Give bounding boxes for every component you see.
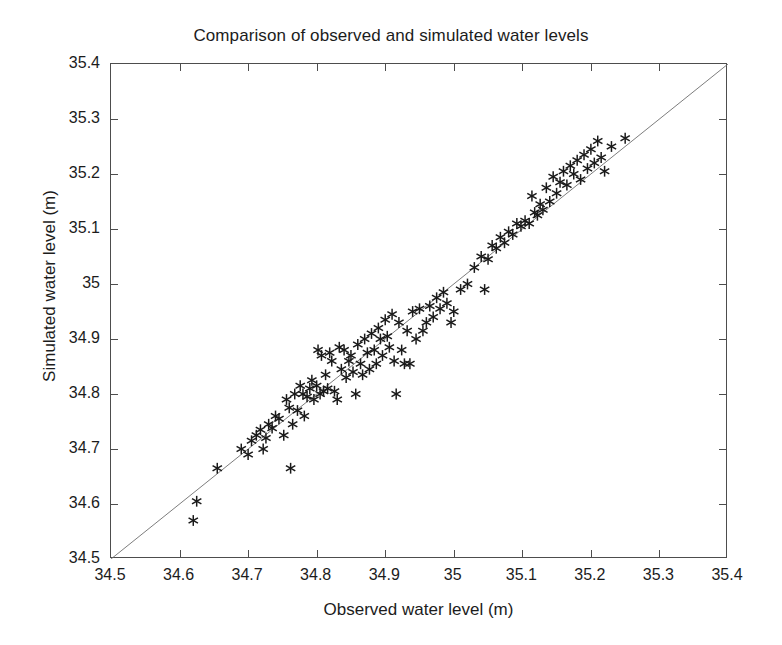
data-point [389,356,398,367]
x-tick-mark [591,550,592,557]
data-point [351,389,360,400]
data-point [261,433,270,444]
y-tick-label: 35.4 [0,54,100,72]
data-point [192,496,201,507]
data-point [545,196,554,207]
x-tick-label: 34.8 [300,566,331,584]
x-tick-label: 35.3 [643,566,674,584]
y-tick-mark-right [719,229,726,230]
x-tick-mark-top [659,64,660,71]
data-point [607,141,616,152]
y-tick-mark [111,394,118,395]
data-point [411,334,420,345]
x-tick-mark-top [180,64,181,71]
data-point [500,237,509,248]
x-tick-label: 35 [444,566,462,584]
x-tick-mark-top [591,64,592,71]
data-point [325,347,334,358]
data-point [356,358,365,369]
x-tick-label: 34.6 [163,566,194,584]
y-tick-mark-right [719,504,726,505]
data-point-markers [189,133,630,526]
data-point [449,306,458,317]
y-tick-mark-right [719,284,726,285]
data-point [213,463,222,474]
data-point [327,356,336,367]
y-tick-mark [111,119,118,120]
data-point [470,262,479,273]
data-point [542,182,551,193]
data-point [321,369,330,380]
data-point [290,389,299,400]
data-point [392,389,401,400]
y-tick-mark [111,229,118,230]
x-tick-mark-top [385,64,386,71]
data-point [259,444,268,455]
data-point [527,191,536,202]
data-point [256,424,265,435]
x-tick-mark-top [454,64,455,71]
y-tick-mark [111,339,118,340]
y-tick-mark-right [719,339,726,340]
plot-svg [111,64,728,559]
figure-canvas: Comparison of observed and simulated wat… [0,0,782,645]
data-point [593,136,602,147]
y-tick-mark [111,449,118,450]
data-point [480,284,489,295]
x-tick-mark [385,550,386,557]
chart-title: Comparison of observed and simulated wat… [0,26,782,46]
x-tick-mark [522,550,523,557]
y-tick-mark [111,504,118,505]
data-point [189,515,198,526]
x-tick-label: 34.7 [232,566,263,584]
x-tick-mark [317,550,318,557]
data-point [337,364,346,375]
data-point [600,166,609,177]
data-point [552,188,561,199]
plot-area [110,63,727,558]
y-tick-mark-right [719,394,726,395]
x-tick-label: 35.4 [711,566,742,584]
data-point [286,463,295,474]
data-point [394,317,403,328]
x-tick-mark-top [522,64,523,71]
x-tick-mark [180,550,181,557]
data-point [288,419,297,430]
x-tick-label: 34.9 [369,566,400,584]
y-tick-mark [111,284,118,285]
data-point [397,345,406,356]
y-tick-label: 34.6 [0,494,100,512]
data-point [402,325,411,336]
y-tick-mark-right [719,119,726,120]
x-tick-mark-top [248,64,249,71]
x-tick-mark [454,550,455,557]
data-point [279,430,288,441]
y-tick-mark [111,174,118,175]
data-point [400,358,409,369]
x-tick-mark [248,550,249,557]
data-point [620,133,629,144]
y-tick-label: 34.5 [0,549,100,567]
x-axis-label: Observed water level (m) [110,600,727,620]
data-point [446,317,455,328]
x-tick-mark [659,550,660,557]
data-point [385,342,394,353]
x-tick-label: 34.5 [94,566,125,584]
y-axis-label: Simulated water level (m) [40,96,60,476]
data-point [378,350,387,361]
x-tick-label: 35.1 [506,566,537,584]
data-point [405,358,414,369]
x-tick-label: 35.2 [574,566,605,584]
y-tick-mark-right [719,449,726,450]
y-tick-mark-right [719,174,726,175]
x-tick-mark-top [317,64,318,71]
